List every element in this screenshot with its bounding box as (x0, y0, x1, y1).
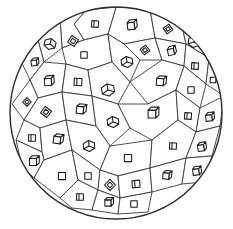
cube-glyph (191, 63, 198, 70)
cube-glyph (105, 197, 114, 206)
cube-glyph (127, 19, 138, 30)
cube-glyph (29, 135, 36, 141)
cube-glyph (169, 143, 176, 150)
voronoi-cube-disk-figure (0, 0, 233, 229)
cube-glyph (124, 154, 131, 161)
cube-glyph (205, 112, 214, 121)
cube-glyph (81, 52, 87, 58)
cube-glyph (77, 194, 84, 200)
cube-glyph (85, 173, 91, 179)
cube-glyph (132, 180, 140, 188)
cube-glyph (58, 172, 65, 179)
cube-glyph (163, 170, 172, 179)
cube-glyph (76, 103, 87, 114)
cube-glyph (148, 107, 159, 118)
cube-glyph (188, 87, 194, 93)
cube-glyph (156, 76, 167, 87)
cube-glyph (197, 142, 207, 152)
cube-glyph (44, 75, 54, 85)
cube-glyph (184, 113, 191, 120)
cube-glyph (91, 21, 98, 28)
cube-glyph (31, 58, 39, 66)
cube-glyph (192, 166, 201, 175)
cube-glyph (131, 201, 137, 207)
figure-canvas (0, 0, 233, 229)
cube-glyph (29, 156, 39, 166)
cube-glyph (53, 133, 64, 144)
cube-glyph (210, 77, 216, 83)
cube-glyph (74, 78, 82, 85)
